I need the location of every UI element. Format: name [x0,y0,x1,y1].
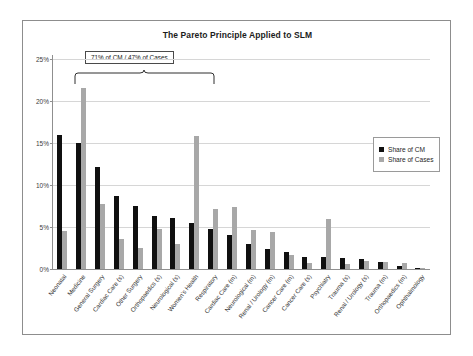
bar-share-of-cases [100,204,105,269]
chart-frame: The Pareto Principle Applied to SLM 71% … [22,20,451,335]
legend-swatch-icon-cm [379,147,384,152]
x-label-cell: Neonatal [53,271,72,356]
bar-group [185,59,204,269]
x-label-cell: Renal / Urology (s) [355,271,374,356]
x-label-cell: Orthopaedics (m) [392,271,411,356]
bar-group [336,59,355,269]
bar-group [91,59,110,269]
x-label-cell: Medicine [72,271,91,356]
legend-item-share-of-cm: Share of CM [379,146,433,153]
x-label-cell: Other Surgery [128,271,147,356]
x-label-cell: Ophthalmology [411,271,430,356]
bar-share-of-cases [213,209,218,269]
legend-label-cm: Share of CM [388,146,425,153]
bar-share-of-cases [232,207,237,269]
legend-swatch-icon-cases [379,157,384,162]
bar-group [53,59,72,269]
bar-share-of-cases [326,219,331,269]
x-axis-labels: NeonatalMedicineGeneral SurgeryCardiac C… [53,271,430,356]
legend-label-cases: Share of Cases [388,156,433,163]
bar-group [298,59,317,269]
bar-group [279,59,298,269]
y-tick-label: 0% [40,266,49,273]
bar-group [147,59,166,269]
bar-share-of-cases [289,255,294,269]
y-tick-mark [50,269,53,270]
bar-share-of-cases [175,244,180,269]
bar-group [241,59,260,269]
bar-share-of-cases [119,239,124,269]
y-tick-label: 25% [36,56,49,63]
x-label-cell: Cancer Care (s) [298,271,317,356]
chart-title: The Pareto Principle Applied to SLM [23,30,452,40]
chart-legend: Share of CM Share of Cases [373,137,440,172]
x-label-cell: Neurological (s) [166,271,185,356]
bar-share-of-cases [345,264,350,269]
x-axis-tick-label: Neonatal [47,273,68,297]
bar-share-of-cases [270,232,275,269]
x-label-cell: General Surgery [91,271,110,356]
bar-group [317,59,336,269]
bar-group [166,59,185,269]
bar-group [260,59,279,269]
bar-group [223,59,242,269]
bar-share-of-cases [402,263,407,269]
bar-share-of-cases [364,261,369,269]
x-label-cell: Women's Health [185,271,204,356]
bar-group [204,59,223,269]
x-label-cell: Orthopaedics (s) [147,271,166,356]
y-tick-label: 5% [40,224,49,231]
y-tick-label: 10% [36,182,49,189]
bar-group [72,59,91,269]
bar-group [355,59,374,269]
bar-share-of-cases [138,248,143,269]
bar-share-of-cases [307,263,312,269]
bar-share-of-cases [383,262,388,269]
x-label-cell: Renal / Urology (m) [260,271,279,356]
bar-share-of-cases [420,268,425,269]
x-label-cell: Cardiac Care (s) [110,271,129,356]
bar-share-of-cases [194,136,199,269]
y-tick-label: 15% [36,140,49,147]
bar-share-of-cases [81,88,86,269]
y-tick-label: 20% [36,98,49,105]
gridline [53,269,430,270]
bar-share-of-cases [62,231,67,269]
bar-group [110,59,129,269]
x-label-cell: Cancer Care (m) [279,271,298,356]
bar-share-of-cases [157,229,162,269]
bar-group [128,59,147,269]
bar-share-of-cases [251,230,256,269]
legend-item-share-of-cases: Share of Cases [379,156,433,163]
